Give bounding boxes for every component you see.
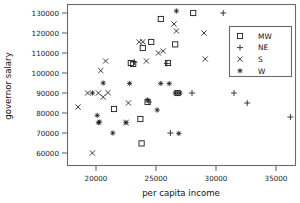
square-open-marker	[138, 116, 143, 121]
square-open-marker	[149, 39, 154, 44]
data-point-W	[95, 113, 100, 118]
data-point-S	[140, 39, 145, 44]
data-point-MW	[140, 45, 145, 50]
y-axis-title: governor salary	[3, 52, 13, 119]
chart-canvas: 6000070000800009000010000011000012000013…	[0, 0, 300, 203]
data-point-W	[90, 90, 95, 95]
data-point-S	[101, 94, 106, 99]
legend-label-NE: NE	[258, 43, 269, 52]
x-axis-tick-label: 20000	[85, 174, 108, 183]
data-point-S	[203, 56, 208, 61]
data-point-MW	[139, 141, 144, 146]
data-point-NE	[220, 10, 226, 16]
series-S	[75, 21, 207, 155]
data-point-S	[171, 21, 176, 26]
data-point-NE	[244, 100, 250, 106]
square-open-marker	[173, 42, 178, 47]
data-point-MW	[158, 16, 163, 21]
data-point-S	[144, 58, 149, 63]
x-axis-tick-label: 25000	[145, 174, 168, 183]
data-point-MW	[111, 106, 116, 111]
y-axis-tick-label: 110000	[32, 49, 60, 58]
legend-label-MW: MW	[258, 32, 272, 41]
y-axis-tick-label: 60000	[36, 149, 59, 158]
data-point-W	[101, 80, 106, 85]
data-point-W	[167, 81, 172, 86]
legend-marker-W	[237, 68, 242, 73]
data-point-W	[145, 97, 150, 102]
data-point-W	[110, 130, 115, 135]
series-MW	[111, 10, 195, 146]
data-point-S	[103, 58, 108, 63]
y-axis-tick-label: 70000	[36, 129, 59, 138]
data-point-MW	[149, 39, 154, 44]
data-point-W	[174, 8, 179, 13]
y-axis-ticks	[62, 13, 68, 153]
data-point-S	[98, 68, 103, 73]
y-axis-tick-label: 80000	[36, 109, 59, 118]
data-point-W	[155, 107, 160, 112]
data-point-S	[96, 90, 101, 95]
scatter-plot-figure: 6000070000800009000010000011000012000013…	[0, 0, 300, 203]
square-open-marker	[191, 10, 196, 15]
data-point-S	[126, 100, 131, 105]
data-point-S	[105, 90, 110, 95]
square-open-marker	[158, 16, 163, 21]
x-axis-ticks	[96, 166, 276, 172]
y-axis-tick-label: 90000	[36, 89, 59, 98]
data-point-MW	[173, 42, 178, 47]
data-point-NE	[287, 114, 293, 120]
square-open-marker	[140, 45, 145, 50]
x-axis-tick-label: 35000	[265, 174, 288, 183]
data-point-S	[75, 104, 80, 109]
data-point-W	[127, 81, 132, 86]
square-open-marker	[139, 141, 144, 146]
data-point-W	[176, 131, 181, 136]
y-axis-tick-labels: 6000070000800009000010000011000012000013…	[32, 9, 60, 158]
data-point-W	[158, 81, 163, 86]
x-axis-title: per capita income	[142, 188, 220, 198]
data-point-S	[85, 90, 90, 95]
data-point-W	[173, 90, 178, 95]
x-axis-tick-labels: 20000250003000035000	[85, 174, 288, 183]
y-axis-tick-label: 130000	[32, 9, 60, 18]
data-point-NE	[189, 90, 195, 96]
data-point-S	[201, 30, 206, 35]
series-W	[90, 8, 183, 136]
data-point-NE	[131, 59, 137, 65]
y-axis-tick-label: 120000	[32, 29, 60, 38]
y-axis-tick-label: 100000	[32, 69, 60, 78]
data-point-W	[97, 119, 102, 124]
data-point-MW	[191, 10, 196, 15]
data-point-MW	[138, 116, 143, 121]
data-point-W	[123, 120, 128, 125]
legend-label-W: W	[258, 67, 266, 76]
data-point-S	[161, 48, 166, 53]
data-point-W	[177, 90, 182, 95]
data-point-NE	[231, 90, 237, 96]
data-point-S	[90, 150, 95, 155]
data-point-S	[174, 28, 179, 33]
data-point-NE	[167, 130, 173, 136]
legend: MWNESW	[230, 27, 292, 77]
legend-label-S: S	[258, 55, 263, 64]
x-axis-tick-label: 30000	[205, 174, 228, 183]
square-open-marker	[111, 106, 116, 111]
data-point-S	[156, 50, 161, 55]
